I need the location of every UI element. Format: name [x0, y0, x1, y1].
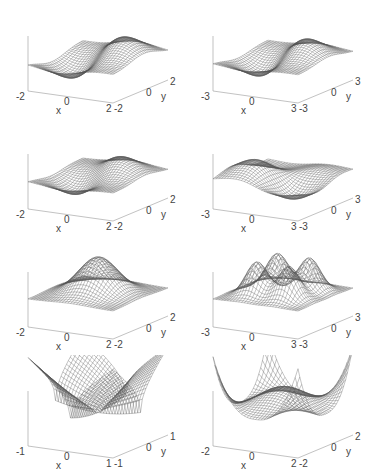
x-tick-max: 3	[291, 222, 297, 232]
x-tick-mid: 0	[249, 452, 255, 462]
y-tick-mid: 0	[146, 88, 152, 98]
x-tick-max: 1	[106, 459, 112, 469]
x-tick-max: 3	[291, 340, 297, 350]
y-tick-min: -3	[299, 222, 308, 232]
y-tick-min: -2	[114, 104, 123, 114]
y-tick-min: -2	[114, 340, 123, 350]
y-tick-max: 2	[170, 195, 176, 205]
y-tick-min: -3	[299, 340, 308, 350]
x-tick-min: -1	[16, 447, 25, 457]
x-tick-max: 3	[291, 104, 297, 114]
x-tick-min: -2	[16, 328, 25, 338]
y-tick-max: 2	[355, 432, 361, 442]
y-tick-mid: 0	[146, 443, 152, 453]
y-tick-mid: 0	[331, 324, 337, 334]
y-tick-max: 3	[355, 313, 361, 323]
y-tick-min: -2	[299, 459, 308, 469]
y-axis-label: y	[346, 447, 351, 457]
x-tick-min: -2	[201, 447, 210, 457]
y-tick-min: -1	[114, 459, 123, 469]
y-tick-mid: 0	[331, 443, 337, 453]
x-axis-label: x	[56, 342, 61, 352]
y-tick-min: -3	[299, 104, 308, 114]
y-tick-mid: 0	[146, 324, 152, 334]
surface-plot-row4-right: -202-202xy	[185, 355, 369, 473]
y-tick-max: 2	[170, 313, 176, 323]
x-tick-min: -3	[201, 210, 210, 220]
x-axis-label: x	[56, 106, 61, 116]
x-axis-label: x	[241, 342, 246, 352]
y-axis-label: y	[346, 92, 351, 102]
x-tick-max: 2	[291, 459, 297, 469]
x-tick-min: -2	[16, 92, 25, 102]
y-tick-mid: 0	[146, 206, 152, 216]
y-tick-max: 3	[355, 77, 361, 87]
y-axis-label: y	[161, 210, 166, 220]
x-tick-max: 2	[106, 104, 112, 114]
surface-plot-row2-right: -303-303xy	[185, 118, 369, 236]
surface-plot-row4-left: -101-101xy	[0, 355, 184, 473]
y-tick-mid: 0	[331, 206, 337, 216]
y-axis-label: y	[161, 328, 166, 338]
x-tick-mid: 0	[64, 333, 70, 343]
y-axis-label: y	[346, 210, 351, 220]
x-axis-label: x	[241, 461, 246, 471]
y-axis-label: y	[161, 447, 166, 457]
x-tick-min: -2	[16, 210, 25, 220]
x-tick-mid: 0	[249, 333, 255, 343]
x-tick-mid: 0	[64, 97, 70, 107]
surface-plot-row2-left: -202-202xy	[0, 118, 184, 236]
x-tick-mid: 0	[64, 215, 70, 225]
surface-plot-row1-left: -202-202xy	[0, 0, 184, 118]
x-tick-mid: 0	[249, 215, 255, 225]
x-tick-min: -3	[201, 92, 210, 102]
x-axis-label: x	[241, 106, 246, 116]
surface-plot-row1-right: -303-303xy	[185, 0, 369, 118]
y-tick-max: 1	[170, 432, 176, 442]
x-tick-mid: 0	[64, 452, 70, 462]
y-axis-label: y	[346, 328, 351, 338]
x-tick-max: 2	[106, 222, 112, 232]
y-tick-mid: 0	[331, 88, 337, 98]
x-tick-min: -3	[201, 328, 210, 338]
x-tick-mid: 0	[249, 97, 255, 107]
x-axis-label: x	[56, 461, 61, 471]
surface-plot-row3-left: -202-202xy	[0, 236, 184, 354]
x-axis-label: x	[241, 224, 246, 234]
y-axis-label: y	[161, 92, 166, 102]
y-tick-min: -2	[114, 222, 123, 232]
x-tick-max: 2	[106, 340, 112, 350]
surface-plot-row3-right: -303-303xy	[185, 236, 369, 354]
x-axis-label: x	[56, 224, 61, 234]
y-tick-max: 2	[170, 77, 176, 87]
y-tick-max: 3	[355, 195, 361, 205]
